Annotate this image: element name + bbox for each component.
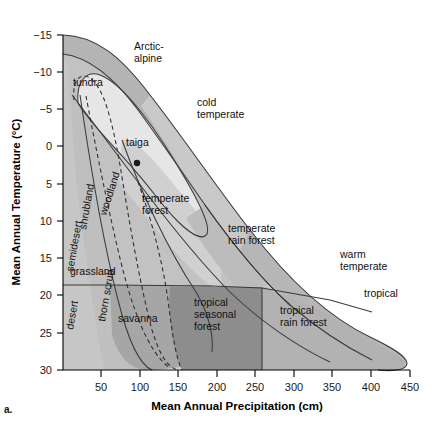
plot-regions: [63, 35, 407, 371]
taiga-data-point: [134, 160, 140, 166]
x-tick-label: 250: [246, 381, 264, 393]
label-savanna: savanna: [118, 312, 158, 324]
label-temperate-forest: temperate: [142, 192, 189, 204]
y-tick-label: 15: [40, 252, 52, 264]
y-tick-label: 5: [46, 178, 52, 190]
label-tropical-rain-forest-2: rain forest: [280, 316, 327, 328]
x-tick-label: 450: [401, 381, 419, 393]
x-tick-label: 100: [131, 381, 149, 393]
y-tick-label: −15: [33, 29, 52, 41]
region-tropical-rain-forest: [262, 287, 403, 370]
x-tick-label: 50: [95, 381, 107, 393]
label-arctic-alpine-2: alpine: [134, 52, 162, 64]
y-tick-label: 30: [40, 364, 52, 376]
x-tick-label: 300: [285, 381, 303, 393]
label-tropical-seasonal-forest-3: forest: [194, 320, 220, 332]
y-tick-label: −5: [39, 103, 52, 115]
label-temperate-rain-forest: temperate: [228, 222, 275, 234]
label-tropical-rain-forest: tropical: [280, 304, 314, 316]
x-tick-label: 150: [169, 381, 187, 393]
label-cold-temperate: cold: [197, 96, 216, 108]
label-tropical: tropical: [364, 287, 398, 299]
label-warm-temperate: warm: [339, 248, 366, 260]
x-tick-label: 200: [208, 381, 226, 393]
figure-caption-label: a.: [4, 404, 12, 415]
x-axis-title: Mean Annual Precipitation (cm): [151, 400, 323, 412]
whittaker-biome-figure: −15 −10 −5 0 5 10 15 20 25 30 50 100 150…: [0, 0, 440, 431]
label-temperate-forest-2: forest: [142, 204, 168, 216]
y-axis-ticks: [57, 35, 63, 370]
x-axis-tick-labels: 50 100 150 200 250 300 350 400 450: [95, 381, 419, 393]
x-tick-label: 350: [323, 381, 341, 393]
y-tick-label: 20: [40, 289, 52, 301]
y-axis-title: Mean Annual Temperature (°C): [10, 118, 22, 285]
label-tropical-seasonal-forest: tropical: [194, 296, 228, 308]
y-axis-tick-labels: −15 −10 −5 0 5 10 15 20 25 30: [33, 29, 52, 376]
label-arctic-alpine: Arctic-: [134, 40, 164, 52]
y-tick-label: 10: [40, 215, 52, 227]
label-tundra: tundra: [73, 76, 103, 88]
label-temperate-rain-forest-2: rain forest: [228, 234, 275, 246]
label-tropical-seasonal-forest-2: seasonal: [194, 308, 236, 320]
y-tick-label: −10: [33, 66, 52, 78]
biome-climate-diagram: −15 −10 −5 0 5 10 15 20 25 30 50 100 150…: [0, 0, 440, 431]
x-tick-label: 400: [362, 381, 380, 393]
label-warm-temperate-2: temperate: [340, 260, 387, 272]
x-axis-ticks: [101, 370, 410, 377]
y-tick-label: 25: [40, 327, 52, 339]
label-cold-temperate-2: temperate: [197, 108, 244, 120]
label-taiga: taiga: [126, 136, 149, 148]
y-tick-label: 0: [46, 140, 52, 152]
